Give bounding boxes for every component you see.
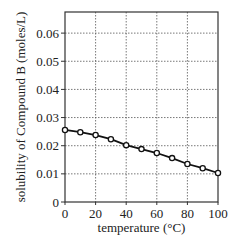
data-point-marker	[78, 130, 83, 135]
x-axis-ticks: 020406080100	[62, 202, 228, 221]
y-tick-label: 0.04	[36, 82, 59, 97]
data-point-marker	[93, 132, 98, 137]
x-axis-label: temperature (°C)	[98, 220, 186, 235]
data-point-marker	[185, 161, 190, 166]
data-point-marker	[215, 170, 220, 175]
data-point-marker	[108, 137, 113, 142]
data-point-marker	[62, 127, 67, 132]
y-tick-label: 0.06	[36, 26, 59, 41]
y-axis-label: solubility of Compound B (moles/L)	[13, 12, 28, 203]
x-tick-label: 60	[150, 206, 163, 221]
data-point-marker	[124, 143, 129, 148]
x-tick-label: 40	[120, 206, 133, 221]
solubility-chart: 00.010.020.030.040.050.06 020406080100 t…	[0, 0, 236, 246]
data-point-marker	[200, 166, 205, 171]
y-tick-label: 0	[53, 195, 60, 210]
data-series	[62, 127, 220, 175]
grid-lines	[65, 12, 218, 202]
x-tick-label: 0	[62, 206, 69, 221]
x-tick-label: 100	[208, 206, 228, 221]
y-axis-ticks: 00.010.020.030.040.050.06	[36, 26, 65, 210]
data-point-marker	[154, 150, 159, 155]
y-tick-label: 0.02	[36, 138, 59, 153]
y-tick-label: 0.01	[36, 166, 59, 181]
data-point-marker	[170, 155, 175, 160]
y-tick-label: 0.05	[36, 54, 59, 69]
x-tick-label: 20	[89, 206, 102, 221]
y-tick-label: 0.03	[36, 110, 59, 125]
data-point-marker	[139, 146, 144, 151]
x-tick-label: 80	[181, 206, 194, 221]
